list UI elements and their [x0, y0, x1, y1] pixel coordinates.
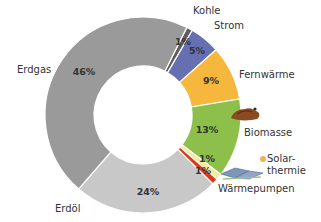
slice-name-label: Biomasse	[244, 127, 292, 138]
slice-name-label: Erdgas	[17, 64, 51, 75]
slice-name-label: Solar-thermie	[267, 153, 306, 176]
slice-percent-label: 13%	[196, 124, 219, 135]
slice-name-label: Kohle	[193, 5, 220, 16]
slice-percent-label: 1%	[199, 153, 216, 164]
slice-name-label: Wärmepumpen	[218, 183, 294, 194]
slice-percent-label: 9%	[203, 75, 220, 86]
slice-name-label: Strom	[214, 20, 244, 31]
slice-percent-label: 1%	[195, 165, 212, 176]
slice-percent-label: 24%	[137, 186, 160, 197]
slice-name-label: Erdöl	[55, 203, 81, 214]
slice-name-label: Fernwärme	[239, 69, 295, 80]
donut-chart: 1%Kohle5%Strom9%Fernwärme13%Biomasse1%So…	[0, 0, 321, 222]
slice-percent-label: 46%	[73, 66, 96, 77]
slice-percent-label: 5%	[189, 45, 206, 56]
donut-slices	[45, 17, 241, 213]
